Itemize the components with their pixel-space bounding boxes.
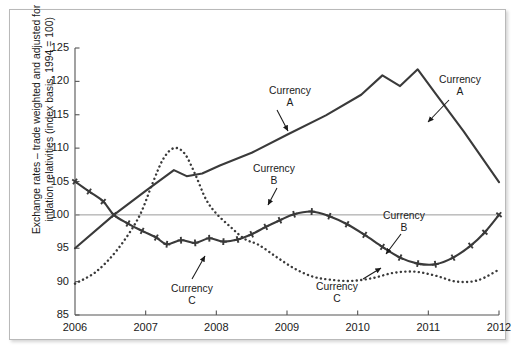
y-tick-label: 110: [39, 141, 69, 153]
annotation-currency-a-left-leader: [277, 110, 288, 131]
annotation-currency-b-left: Currency B: [241, 163, 307, 187]
x-tick-label: 2012: [474, 321, 520, 333]
x-tick-label: 2006: [50, 321, 100, 333]
x-tick-label: 2009: [262, 321, 312, 333]
x-tick-label: 2007: [121, 321, 171, 333]
series-markers-currency-b: [70, 177, 504, 268]
x-tick-label: 2010: [333, 321, 383, 333]
y-tick-label: 90: [39, 275, 69, 287]
annotation-currency-a-right: Currency A: [427, 74, 493, 98]
y-tick-label: 95: [39, 241, 69, 253]
y-tick-label: 105: [39, 175, 69, 187]
y-tick-label: 115: [39, 108, 69, 120]
y-tick-label: 125: [39, 41, 69, 53]
annotation-currency-a-left: Currency A: [257, 85, 323, 109]
annotation-currency-c-right: Currency C: [304, 281, 370, 305]
y-tick-label: 120: [39, 74, 69, 86]
annotation-currency-a-right-leader: [428, 100, 449, 122]
annotation-currency-c-left-leader: [192, 256, 205, 279]
x-tick-label: 2008: [191, 321, 241, 333]
y-tick-label: 100: [39, 208, 69, 220]
annotation-currency-b-right-leader: [386, 234, 401, 254]
y-tick-label: 85: [39, 308, 69, 320]
figure-container: Exchange rates – trade weighted and adju…: [0, 0, 520, 354]
annotation-currency-c-left: Currency C: [159, 283, 225, 307]
annotation-currency-b-left-leader: [268, 188, 277, 205]
annotation-currency-b-right: Currency B: [371, 210, 437, 234]
x-tick-label: 2011: [403, 321, 453, 333]
